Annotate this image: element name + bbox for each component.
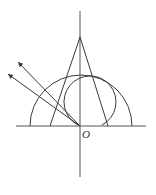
origin-label: O bbox=[82, 128, 90, 140]
ray-upper bbox=[18, 62, 80, 126]
triangle-left-edge bbox=[50, 37, 80, 126]
triangle-right-edge bbox=[80, 37, 108, 126]
optics-diagram: O bbox=[0, 0, 156, 195]
ray-lower bbox=[8, 74, 80, 126]
